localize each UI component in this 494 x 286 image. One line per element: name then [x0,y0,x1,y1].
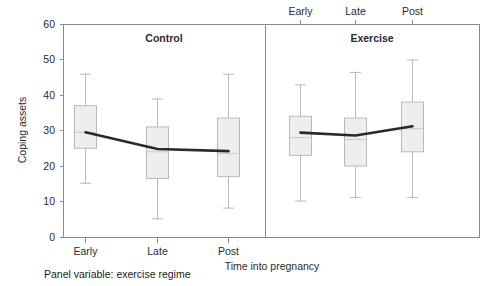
box-control-post [218,74,240,209]
panel-title-control: Control [145,32,182,44]
x-axis-title: Time into pregnancy [225,260,320,272]
x-tick-label-exercise-post: Post [402,5,423,17]
y-tick-label-30: 30 [43,124,55,136]
box-rect [147,127,169,178]
box-rect [75,106,97,149]
y-tick-label-0: 0 [49,231,55,243]
chart-canvas: 60 50 40 30 20 10 0 Coping assets Early … [0,0,494,286]
x-tick-label-exercise-late: Late [345,5,366,17]
x-tick-label-exercise-early: Early [289,5,314,17]
panel-variable-note: Panel variable: exercise regime [44,268,191,280]
y-tick-label-40: 40 [43,89,55,101]
panel-title-exercise: Exercise [350,32,393,44]
x-tick-label-control-late: Late [147,245,168,257]
x-tick-label-control-post: Post [218,245,239,257]
panel-variable-note-wrap: Panel variable: exercise regime [44,264,191,282]
x-tick-label-control-early: Early [74,245,99,257]
y-tick-label-20: 20 [43,160,55,172]
y-tick-label-60: 60 [43,18,55,30]
y-tick-label-50: 50 [43,53,55,65]
box-control-early [75,74,97,184]
y-tick-label-10: 10 [43,195,55,207]
y-axis: 60 50 40 30 20 10 0 Coping assets [16,18,64,243]
y-axis-title: Coping assets [16,97,28,164]
box-plot-series [75,60,424,220]
box-exercise-early [290,84,312,201]
panel-boxes-exercise [290,60,424,202]
boxplot-chart: 60 50 40 30 20 10 0 Coping assets Early … [0,0,494,286]
x-axis-top: Early Late Post [289,5,424,25]
box-rect [345,118,367,166]
box-rect [218,118,240,177]
panel-boxes-control [75,74,240,220]
box-control-late [147,99,169,220]
box-rect [290,116,312,155]
